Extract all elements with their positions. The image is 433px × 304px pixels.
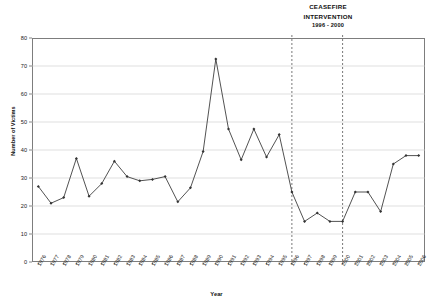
data-point-marker bbox=[417, 154, 420, 157]
y-axis-tick-label: 0 bbox=[5, 259, 27, 265]
data-point-marker bbox=[354, 191, 357, 194]
data-point-marker bbox=[202, 150, 205, 153]
data-point-marker bbox=[227, 128, 230, 131]
series-markers bbox=[37, 58, 420, 223]
data-point-marker bbox=[252, 128, 255, 131]
intervention-dashed-lines bbox=[292, 35, 343, 264]
y-axis-tick-label: 50 bbox=[5, 119, 27, 125]
data-point-marker bbox=[62, 196, 65, 199]
y-axis-tick-label: 20 bbox=[5, 203, 27, 209]
y-axis-ticks bbox=[29, 38, 32, 262]
data-point-marker bbox=[151, 178, 154, 181]
data-point-marker bbox=[75, 157, 78, 160]
y-axis-tick-label: 30 bbox=[5, 175, 27, 181]
data-point-marker bbox=[341, 220, 344, 223]
series-line bbox=[38, 59, 418, 221]
y-axis-tick-label: 60 bbox=[5, 91, 27, 97]
gridlines bbox=[32, 66, 425, 234]
line-chart: CEASEFIRE INTERVENTION 1996 - 2000 Numbe… bbox=[0, 0, 433, 304]
y-axis-tick-label: 80 bbox=[5, 35, 27, 41]
y-axis-tick-label: 10 bbox=[5, 231, 27, 237]
data-point-marker bbox=[240, 158, 243, 161]
y-axis-tick-label: 40 bbox=[5, 147, 27, 153]
data-point-marker bbox=[164, 175, 167, 178]
data-point-marker bbox=[138, 179, 141, 182]
y-axis-tick-label: 70 bbox=[5, 63, 27, 69]
data-point-marker bbox=[290, 191, 293, 194]
data-point-marker bbox=[214, 58, 217, 61]
